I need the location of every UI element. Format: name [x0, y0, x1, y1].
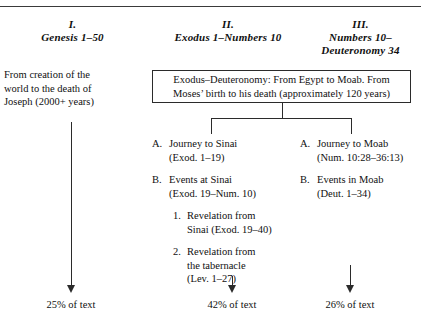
outline-sub-item-line: Revelation from — [187, 209, 302, 223]
outline-sub-marker: 1. — [173, 209, 186, 223]
outline-item-body: Journey to Moab (Num. 10:28–36:13) — [317, 137, 421, 164]
column-heading-2: II. Exodus 1–Numbers 10 — [145, 18, 311, 44]
column-2-numeral: II. — [145, 18, 311, 31]
outline-item-line: Journey to Sinai — [169, 137, 302, 151]
arrow-shaft-right — [350, 265, 351, 287]
column-2-reference: Exodus 1–Numbers 10 — [145, 31, 311, 44]
outline-item-line: (Exod. 19–Num. 10) — [169, 187, 302, 201]
top-horizontal-rule — [0, 6, 421, 7]
arrow-head-middle — [228, 285, 236, 293]
outline-item-line: (Exod. 1–19) — [169, 151, 302, 165]
connector-horizontal-bar — [211, 118, 352, 119]
column-1-numeral: I. — [0, 18, 145, 31]
outline-sub-item-line: the tabernacle — [187, 259, 302, 273]
column-3-reference-line-2: Deuteronomy 34 — [300, 44, 421, 57]
outline-marker: B. — [152, 173, 167, 187]
outline-item-body: Events in Moab (Deut. 1–34) — [317, 173, 421, 200]
connector-arm-left — [211, 118, 212, 134]
left-column-paragraph: From creation of the world to the death … — [4, 68, 138, 109]
column-3-numeral: III. — [300, 18, 421, 31]
outline-item: B. Events at Sinai (Exod. 19–Num. 10) — [152, 173, 302, 200]
outline-item-line: Events at Sinai — [169, 173, 302, 187]
outline-sub-item-line: Revelation from — [187, 245, 302, 259]
outline-item-body: Events at Sinai (Exod. 19–Num. 10) — [169, 173, 302, 200]
outline-sub-item-body: Revelation from the tabernacle (Lev. 1–2… — [187, 245, 302, 286]
outline-item: A. Journey to Moab (Num. 10:28–36:13) — [300, 137, 421, 164]
outline-marker: A. — [152, 137, 167, 151]
summary-box-line-2: Moses’ birth to his death (approximately… — [153, 87, 410, 101]
arrow-head-right — [346, 285, 354, 293]
percentage-label-1: 25% of text — [11, 299, 131, 310]
left-paragraph-line-3: Joseph (2000+ years) — [4, 95, 138, 109]
arrow-head-left — [67, 285, 75, 293]
outline-sub-marker: 2. — [173, 245, 186, 259]
connector-stem — [282, 103, 283, 119]
outline-sub-item-line: Sinai (Exod. 19–40) — [187, 223, 302, 237]
outline-right: A. Journey to Moab (Num. 10:28–36:13) B.… — [300, 137, 421, 209]
outline-item: B. Events in Moab (Deut. 1–34) — [300, 173, 421, 200]
connector-arm-right — [351, 118, 352, 134]
outline-marker: A. — [300, 137, 315, 151]
column-3-reference-line-1: Numbers 10– — [300, 31, 421, 44]
outline-item-body: Journey to Sinai (Exod. 1–19) — [169, 137, 302, 164]
column-1-reference: Genesis 1–50 — [0, 31, 145, 44]
summary-box-line-1: Exodus–Deuteronomy: From Egypt to Moab. … — [153, 73, 410, 87]
summary-box: Exodus–Deuteronomy: From Egypt to Moab. … — [152, 70, 411, 103]
arrow-shaft-left — [71, 122, 72, 287]
left-paragraph-line-2: world to the death of — [4, 82, 138, 96]
percentage-label-3: 26% of text — [290, 299, 410, 310]
outline-item-line: (Deut. 1–34) — [317, 187, 421, 201]
outline-sub-item-body: Revelation from Sinai (Exod. 19–40) — [187, 209, 302, 236]
outline-item-line: Events in Moab — [317, 173, 421, 187]
outline-item: A. Journey to Sinai (Exod. 1–19) — [152, 137, 302, 164]
outline-middle: A. Journey to Sinai (Exod. 1–19) B. Even… — [152, 137, 302, 295]
outline-item-line: Journey to Moab — [317, 137, 421, 151]
column-heading-1: I. Genesis 1–50 — [0, 18, 145, 44]
percentage-label-2: 42% of text — [172, 299, 292, 310]
left-paragraph-line-1: From creation of the — [4, 68, 138, 82]
outline-marker: B. — [300, 173, 315, 187]
outline-sub-item: 2. Revelation from the tabernacle (Lev. … — [173, 245, 302, 286]
column-heading-3: III. Numbers 10– Deuteronomy 34 — [300, 18, 421, 57]
outline-sub-item-line: (Lev. 1–27) — [187, 272, 302, 286]
outline-sub-item: 1. Revelation from Sinai (Exod. 19–40) — [173, 209, 302, 236]
outline-item-line: (Num. 10:28–36:13) — [317, 151, 421, 165]
diagram-canvas: I. Genesis 1–50 II. Exodus 1–Numbers 10 … — [0, 0, 421, 324]
